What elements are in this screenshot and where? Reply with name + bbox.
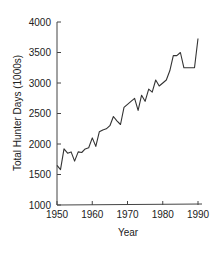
hunter-days-line <box>57 39 198 170</box>
y-tick-label: 2500 <box>29 108 52 119</box>
y-tick-label: 1500 <box>29 169 52 180</box>
y-tick-label: 3500 <box>29 47 52 58</box>
x-tick-label: 1950 <box>46 209 69 220</box>
x-tick-label: 1970 <box>116 209 139 220</box>
x-axis: 19501960197019801990 <box>46 201 210 220</box>
y-axis: 1000150020002500300035004000 <box>29 17 61 211</box>
line-chart: 1000150020002500300035004000 19501960197… <box>0 0 220 256</box>
y-tick-label: 2000 <box>29 139 52 150</box>
y-tick-label: 3000 <box>29 78 52 89</box>
x-tick-label: 1960 <box>81 209 104 220</box>
x-tick-label: 1990 <box>187 209 210 220</box>
x-tick-label: 1980 <box>152 209 175 220</box>
y-tick-label: 4000 <box>29 17 52 28</box>
x-axis-line <box>57 204 202 205</box>
y-axis-title: Total Hunter Days (1000s) <box>12 55 23 171</box>
x-axis-title: Year <box>118 227 139 238</box>
